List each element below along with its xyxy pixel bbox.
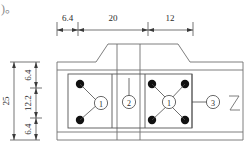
break-line-symbol	[229, 96, 240, 110]
dim-label-left-2: 6.4	[23, 123, 33, 135]
callout-label-3: 3	[211, 99, 215, 108]
z-break-path	[229, 96, 240, 110]
dim-label-left-1: 12.2	[23, 95, 33, 111]
drawing-canvas: )。 6.4 20 12	[0, 0, 246, 152]
top-dimension-labels: 6.4 20 12	[62, 13, 175, 23]
callout-label-2: 2	[127, 99, 131, 108]
callout-bubbles: 1 2 1 3	[94, 95, 219, 109]
dim-label-overall: 25	[1, 96, 11, 106]
callout-bubble-3[interactable]: 3	[206, 95, 219, 108]
technical-drawing-svg: 6.4 20 12	[0, 0, 246, 152]
callout-label-1-left: 1	[99, 100, 103, 109]
callout-bubble-1-left[interactable]: 1	[94, 96, 107, 109]
haunch-profile	[57, 44, 243, 62]
dim-label-top-0: 6.4	[62, 13, 74, 23]
top-dimension-chain	[57, 22, 193, 36]
structure-outline	[57, 44, 243, 140]
dim-label-top-1: 20	[109, 13, 119, 23]
dim-label-left-0: 6.4	[23, 69, 33, 81]
callout-label-1-right: 1	[167, 99, 171, 108]
callout-bubble-1-right[interactable]: 1	[162, 95, 175, 108]
dim-label-top-2: 12	[166, 13, 175, 23]
left-dimension-labels: 25 6.4 12.2 6.4	[1, 69, 33, 135]
callout-bubble-2[interactable]: 2	[122, 95, 135, 108]
